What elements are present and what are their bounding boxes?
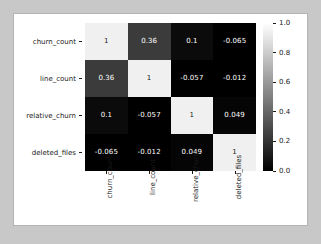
- y-axis-tick-label: deleted_files: [32, 149, 76, 157]
- heatmap-cell: 0.1: [171, 23, 214, 60]
- x-axis-tick-deleted-files: deleted_files: [213, 171, 256, 227]
- colorbar-tick-mark: [273, 52, 276, 53]
- colorbar-tick-label: 0.6: [279, 78, 290, 86]
- x-axis-tick-churn-count: churn_count: [85, 171, 128, 227]
- y-axis-tick-line-count: line_count: [14, 60, 82, 97]
- colorbar-tick-label: 1.0: [279, 19, 290, 27]
- y-axis-tick-label: relative_churn: [26, 112, 76, 120]
- figure-canvas: churn_count line_count relative_churn de…: [13, 13, 308, 226]
- heatmap-cell-value: -0.057: [180, 75, 203, 82]
- x-axis-tick-labels: churn_count line_count relative_churn de…: [85, 171, 256, 227]
- x-axis-tick-label: relative_churn: [192, 152, 200, 202]
- heatmap-cell-value: -0.012: [138, 149, 161, 156]
- colorbar-tick-mark: [273, 141, 276, 142]
- x-axis-tick-line-count: line_count: [128, 171, 171, 227]
- colorbar-tick: 0.2: [273, 137, 290, 145]
- y-axis-tick-mark: [79, 78, 82, 79]
- heatmap-cell: 0.049: [213, 97, 256, 134]
- colorbar-tick-mark: [273, 111, 276, 112]
- colorbar-tick-label: 0.2: [279, 137, 290, 145]
- y-axis-tick-deleted-files: deleted_files: [14, 134, 82, 171]
- correlation-heatmap: 1 0.36 0.1 -0.065 0.36 1 -0.057 -0.012 0…: [85, 23, 256, 171]
- heatmap-cell-value: 0.1: [101, 112, 112, 119]
- x-axis-tick-label: churn_count: [106, 155, 114, 198]
- colorbar-gradient: [263, 23, 273, 171]
- colorbar-tick-label: 0.8: [279, 49, 290, 57]
- heatmap-cell: -0.057: [128, 97, 171, 134]
- colorbar-tick-labels: 1.0 0.8 0.6 0.4 0.2 0.0: [273, 23, 307, 171]
- x-axis-tick-label: deleted_files: [235, 155, 243, 199]
- y-axis-tick-mark: [79, 152, 82, 153]
- x-axis-tick-relative-churn: relative_churn: [171, 171, 214, 227]
- y-axis-tick-mark: [79, 41, 82, 42]
- y-axis-tick-labels: churn_count line_count relative_churn de…: [14, 23, 82, 171]
- heatmap-cell-value: 1: [190, 112, 195, 119]
- heatmap-cell: 1: [128, 60, 171, 97]
- colorbar-tick: 0.8: [273, 49, 290, 57]
- colorbar-tick: 1.0: [273, 19, 290, 27]
- heatmap-cell: -0.057: [171, 60, 214, 97]
- colorbar-tick-mark: [273, 171, 276, 172]
- colorbar-tick: 0.4: [273, 108, 290, 116]
- heatmap-cell: 0.36: [85, 60, 128, 97]
- y-axis-tick-label: churn_count: [33, 38, 76, 46]
- y-axis-tick-relative-churn: relative_churn: [14, 97, 82, 134]
- heatmap-cell-value: 1: [147, 75, 152, 82]
- y-axis-tick-churn-count: churn_count: [14, 23, 82, 60]
- heatmap-cell: 1: [171, 97, 214, 134]
- colorbar-tick-mark: [273, 23, 276, 24]
- heatmap-cell-value: -0.057: [138, 112, 161, 119]
- heatmap-cell-value: 0.36: [141, 38, 157, 45]
- heatmap-cell: -0.065: [213, 23, 256, 60]
- heatmap-cell-value: -0.012: [223, 75, 246, 82]
- x-axis-tick-label: line_count: [149, 159, 157, 195]
- colorbar-tick-mark: [273, 82, 276, 83]
- heatmap-cell-value: 0.049: [224, 112, 245, 119]
- colorbar-tick-label: 0.0: [279, 167, 290, 175]
- colorbar-tick: 0.0: [273, 167, 290, 175]
- colorbar-tick-label: 0.4: [279, 108, 290, 116]
- heatmap-cell-value: -0.065: [223, 38, 246, 45]
- colorbar-tick: 0.6: [273, 78, 290, 86]
- heatmap-cell: -0.012: [213, 60, 256, 97]
- heatmap-cell: 0.36: [128, 23, 171, 60]
- heatmap-cell-value: 0.36: [98, 75, 114, 82]
- heatmap-cell-value: 1: [104, 38, 109, 45]
- heatmap-cell: 0.1: [85, 97, 128, 134]
- heatmap-cell: 1: [85, 23, 128, 60]
- heatmap-cell-value: 0.1: [186, 38, 197, 45]
- y-axis-tick-label: line_count: [40, 75, 76, 83]
- y-axis-tick-mark: [79, 115, 82, 116]
